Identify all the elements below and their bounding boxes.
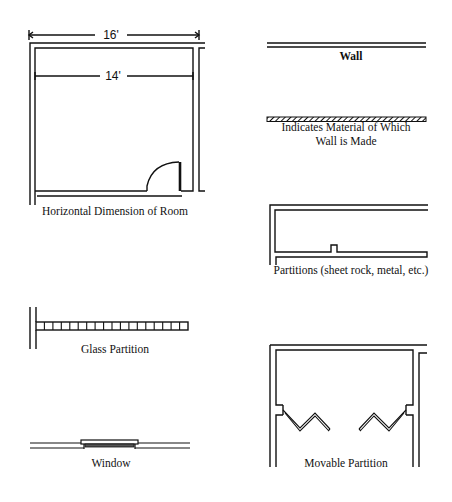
right-folding-panels — [359, 410, 406, 431]
room-dimension-symbol — [29, 30, 205, 205]
room-caption: Horizontal Dimension of Room — [42, 205, 188, 217]
material-caption-line2: Wall is Made — [315, 135, 376, 147]
partitions-caption: Partitions (sheet rock, metal, etc.) — [274, 264, 429, 277]
movable-partition-symbol — [270, 345, 427, 467]
door-symbol — [147, 162, 180, 191]
material-caption-line1: Indicates Material of Which — [281, 121, 410, 133]
outer-dimension-label: 16' — [103, 28, 119, 42]
window-caption: Window — [91, 457, 131, 469]
inner-dimension-label: 14' — [105, 69, 121, 83]
wall-caption: Wall — [339, 50, 362, 62]
architectural-symbols-legend: 16' 14' Horizontal Dimension of Room Wal… — [0, 0, 452, 502]
wall-symbol — [267, 43, 426, 47]
partitions-symbol — [270, 205, 428, 265]
window-symbol — [30, 440, 190, 449]
movable-partition-caption: Movable Partition — [304, 457, 388, 469]
glass-partition-caption: Glass Partition — [81, 343, 149, 355]
left-folding-panels — [283, 410, 330, 431]
